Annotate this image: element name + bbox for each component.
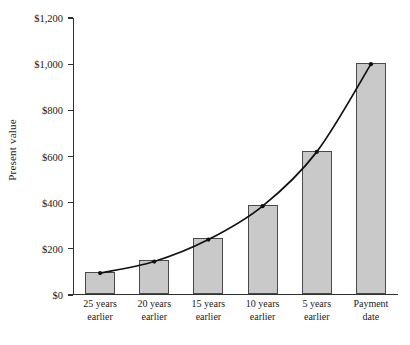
x-axis-tick-label-line: 20 years xyxy=(127,298,181,311)
present-value-curve xyxy=(73,18,398,295)
y-axis-tick xyxy=(68,156,73,157)
y-axis-tick xyxy=(68,110,73,111)
x-axis-tick-label: 15 yearsearlier xyxy=(181,298,235,323)
x-axis-tick-label: 5 yearsearlier xyxy=(290,298,344,323)
y-axis-tick-label: $1,200 xyxy=(34,13,63,24)
y-axis-tick-labels: $0$200$400$600$800$1,000$1,200 xyxy=(0,0,68,345)
x-axis-tick-label-line: date xyxy=(344,311,398,324)
y-axis-tick-label: $1,000 xyxy=(34,59,63,70)
x-axis-tick-label-line: 15 years xyxy=(181,298,235,311)
x-axis-tick-label-line: earlier xyxy=(73,311,127,324)
x-axis-tick-label-line: 25 years xyxy=(73,298,127,311)
y-axis-tick xyxy=(68,248,73,249)
x-axis-tick-label-line: earlier xyxy=(236,311,290,324)
x-axis-tick-label: 10 yearsearlier xyxy=(236,298,290,323)
x-axis-tick-labels: 25 yearsearlier20 yearsearlier15 yearsea… xyxy=(73,298,398,338)
y-axis-tick-label: $0 xyxy=(53,290,64,301)
curve-path xyxy=(100,64,371,273)
curve-data-point xyxy=(315,150,319,154)
x-axis-tick-label-line: 10 years xyxy=(236,298,290,311)
plot-area xyxy=(73,18,398,295)
x-axis-tick-label: Paymentdate xyxy=(344,298,398,323)
curve-data-point xyxy=(260,204,264,208)
x-axis-tick-label-line: Payment xyxy=(344,298,398,311)
x-axis-tick-label-line: earlier xyxy=(127,311,181,324)
y-axis-tick-label: $600 xyxy=(42,151,63,162)
y-axis-tick-label: $400 xyxy=(42,197,63,208)
y-axis-tick-label: $800 xyxy=(42,105,63,116)
y-axis-tick-label: $200 xyxy=(42,243,63,254)
y-axis-tick xyxy=(68,17,73,18)
present-value-chart: Present value $0$200$400$600$800$1,000$1… xyxy=(0,0,410,345)
y-axis-tick xyxy=(68,64,73,65)
curve-data-point xyxy=(206,238,210,242)
curve-data-point xyxy=(152,259,156,263)
y-axis-tick xyxy=(68,294,73,295)
curve-data-point xyxy=(369,62,373,66)
x-axis-tick-label-line: 5 years xyxy=(290,298,344,311)
y-axis-tick xyxy=(68,202,73,203)
x-axis-tick-label-line: earlier xyxy=(290,311,344,324)
x-axis-tick-label: 20 yearsearlier xyxy=(127,298,181,323)
x-axis-tick-label: 25 yearsearlier xyxy=(73,298,127,323)
curve-data-point xyxy=(98,271,102,275)
x-axis-tick-label-line: earlier xyxy=(181,311,235,324)
